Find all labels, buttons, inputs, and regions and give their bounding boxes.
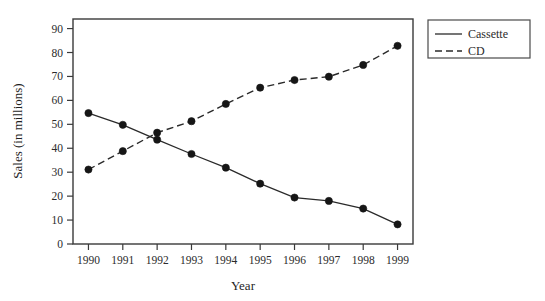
x-tick-label: 1993	[180, 254, 203, 266]
data-point-cassette	[119, 121, 126, 128]
x-tick-label: 1997	[317, 254, 340, 266]
legend: CassetteCD	[428, 20, 530, 58]
data-point-cd	[119, 148, 126, 155]
chart-page: 0102030405060708090 19901991199219931994…	[0, 0, 545, 301]
y-tick-label: 40	[52, 142, 64, 154]
y-tick-label: 30	[52, 166, 64, 178]
data-point-cassette	[325, 197, 332, 204]
data-point-cassette	[85, 109, 92, 116]
y-tick-label: 80	[52, 47, 64, 59]
data-point-cassette	[188, 150, 195, 157]
y-tick-label: 50	[52, 118, 64, 130]
line-chart: 0102030405060708090 19901991199219931994…	[0, 0, 545, 301]
data-point-cd	[222, 100, 229, 107]
data-point-cd	[325, 73, 332, 80]
data-point-cd	[360, 61, 367, 68]
x-tick-label: 1996	[283, 254, 306, 266]
data-point-cassette	[222, 164, 229, 171]
x-tick-label: 1999	[386, 254, 409, 266]
data-point-cassette	[394, 221, 401, 228]
y-tick-label: 70	[52, 70, 64, 82]
legend-label-cassette: Cassette	[468, 27, 508, 41]
y-tick-label: 10	[52, 214, 64, 226]
data-point-cassette	[154, 136, 161, 143]
x-axis-title: Year	[231, 278, 256, 293]
data-point-cassette	[257, 180, 264, 187]
data-point-cd	[394, 42, 401, 49]
x-tick-label: 1991	[111, 254, 134, 266]
x-tick-label: 1998	[352, 254, 375, 266]
y-tick-label: 60	[52, 94, 64, 106]
y-tick-label: 90	[52, 23, 64, 35]
data-point-cd	[291, 76, 298, 83]
legend-label-cd: CD	[468, 44, 485, 58]
data-point-cassette	[291, 194, 298, 201]
data-point-cd	[85, 166, 92, 173]
data-point-cassette	[360, 205, 367, 212]
series-container	[85, 42, 401, 228]
data-point-cd	[154, 129, 161, 136]
series-line-cassette	[88, 113, 397, 224]
y-axis-title: Sales (in millions)	[10, 83, 25, 178]
series-line-cd	[88, 46, 397, 170]
data-point-cd	[257, 84, 264, 91]
y-axis-ticks: 0102030405060708090	[52, 23, 74, 250]
y-tick-label: 0	[57, 238, 63, 250]
x-tick-label: 1995	[249, 254, 272, 266]
y-tick-label: 20	[52, 190, 64, 202]
x-tick-label: 1992	[146, 254, 169, 266]
x-tick-label: 1994	[214, 254, 237, 266]
x-tick-label: 1990	[77, 254, 100, 266]
data-point-cd	[188, 118, 195, 125]
x-axis-ticks: 1990199119921993199419951996199719981999	[77, 244, 409, 266]
